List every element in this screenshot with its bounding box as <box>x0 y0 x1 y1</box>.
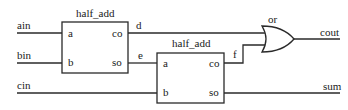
module-title-half-add-2: half_add <box>172 38 210 49</box>
port-label-ha1-b: b <box>68 57 74 68</box>
port-label-ha2-b: b <box>163 87 169 98</box>
output-label-sum: sum <box>323 81 341 92</box>
net-label-e: e <box>138 50 143 61</box>
port-label-ha1-so: so <box>112 57 122 68</box>
module-title-half-add-1: half_add <box>76 8 114 19</box>
input-label-bin: bin <box>17 50 31 61</box>
net-label-f: f <box>233 49 237 60</box>
port-label-ha1-a: a <box>68 28 73 39</box>
schematic-canvas <box>0 0 348 110</box>
net-label-d: d <box>136 20 142 31</box>
port-label-ha1-co: co <box>112 28 122 39</box>
input-label-cin: cin <box>17 80 30 91</box>
gate-label-or: or <box>268 14 277 25</box>
port-label-ha2-a: a <box>163 58 168 69</box>
port-label-ha2-co: co <box>209 58 219 69</box>
input-label-ain: ain <box>17 20 30 31</box>
wire-f <box>224 45 266 63</box>
output-label-cout: cout <box>320 27 339 38</box>
or-gate <box>262 26 294 52</box>
port-label-ha2-so: so <box>209 87 219 98</box>
